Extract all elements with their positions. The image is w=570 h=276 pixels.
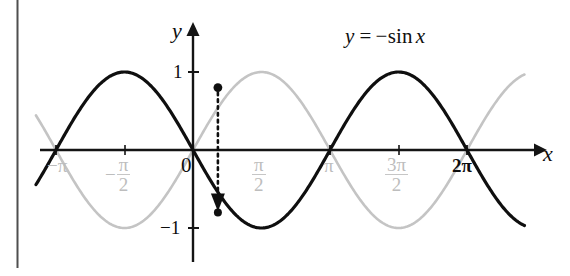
equation-variable: x [416, 24, 426, 48]
x-tick-label-minus-pi: −π [47, 156, 67, 175]
x-tick-label-pi: π [324, 156, 334, 175]
sine-graph-figure: y=−sinx y x 1 −1 −π −π2 0 π2 π 3π2 2π [0, 0, 570, 276]
fraction-half-pi: π2 [117, 155, 131, 195]
equation-equals: = [360, 24, 372, 48]
fraction-denominator: 2 [117, 174, 131, 195]
x-tick-label-half-pi: π2 [252, 155, 266, 195]
y-tick-label-one: 1 [173, 62, 183, 81]
equation-minus: − [376, 24, 388, 48]
fraction-denominator: 2 [385, 174, 408, 195]
x-tick-label-three-half-pi: 3π2 [385, 155, 408, 195]
x-axis-label: x [543, 143, 553, 165]
fraction-numerator: π [252, 155, 266, 174]
plot-canvas [0, 0, 570, 276]
fraction-denominator: 2 [252, 174, 266, 195]
equation-label: y=−sinx [345, 26, 425, 47]
origin-label: 0 [181, 155, 192, 176]
y-axis-arrowhead [187, 22, 200, 36]
fraction-numerator: 3π [385, 155, 408, 174]
equation-lhs: y [345, 24, 355, 48]
y-axis-label: y [172, 20, 182, 42]
fraction-half-pi-positive: π2 [252, 155, 266, 195]
fraction-three-half-pi: 3π2 [385, 155, 408, 195]
equation-function: sin [388, 24, 413, 48]
reflection-target-point [214, 208, 222, 216]
minus-sign: − [105, 165, 117, 184]
reflection-source-point [214, 83, 223, 92]
y-tick-label-minus-one: −1 [160, 218, 180, 237]
x-tick-label-two-pi: 2π [452, 156, 472, 175]
x-tick-label-minus-half-pi: −π2 [105, 155, 130, 195]
fraction-numerator: π [117, 155, 131, 174]
